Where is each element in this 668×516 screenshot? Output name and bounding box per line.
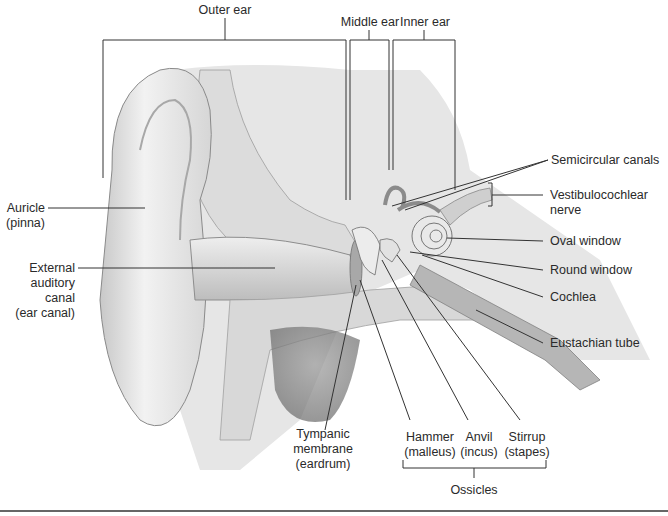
label-auricle: Auricle (pinna) [0, 201, 45, 231]
label-oval-window: Oval window [550, 234, 621, 249]
label-tympanic-membrane: Tympanic membrane (eardrum) [283, 427, 363, 472]
label-semicircular-canals: Semicircular canals [551, 153, 659, 168]
label-hammer: Hammer (malleus) [400, 430, 460, 460]
label-ossicles: Ossicles [444, 483, 504, 498]
label-round-window: Round window [550, 263, 632, 278]
label-anvil: Anvil (incus) [458, 430, 500, 460]
label-stirrup: Stirrup (stapes) [502, 430, 552, 460]
label-external-auditory-canal: External auditory canal (ear canal) [0, 261, 75, 321]
ear-anatomy-diagram: Outer ear Middle ear Inner ear Auricle (… [0, 0, 668, 516]
label-inner-ear: Inner ear [395, 15, 455, 30]
label-vestibulocochlear-nerve: Vestibulocochlear nerve [550, 188, 648, 218]
label-outer-ear: Outer ear [195, 3, 255, 18]
label-eustachian-tube: Eustachian tube [550, 336, 640, 351]
label-cochlea: Cochlea [550, 290, 596, 305]
